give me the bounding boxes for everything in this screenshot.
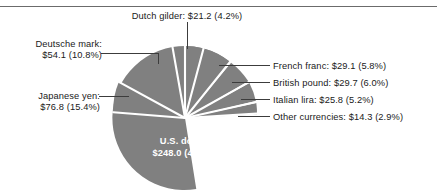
slice-label-french-franc: French franc: $29.1 (5.8%) xyxy=(273,61,386,72)
slice-label-deutsche-mark-line1: Deutsche mark: xyxy=(4,39,102,50)
slice-label-deutsche-mark: Deutsche mark: $54.1 (10.8%) xyxy=(4,39,102,62)
slice-label-dutch-gilder: Dutch gilder: $21.2 (4.2%) xyxy=(98,11,276,22)
slice-label-us-dollar-line2: $248.0 (49.7%) xyxy=(130,148,240,160)
slice-label-italian-lira-line1: Italian lira: $25.8 (5.2%) xyxy=(273,95,374,106)
pie-chart-figure: Dutch gilder: $21.2 (4.2%) Deutsche mark… xyxy=(0,0,437,196)
slice-label-french-franc-line1: French franc: $29.1 (5.8%) xyxy=(273,61,386,72)
slice-label-other-currencies-line1: Other currencies: $14.3 (2.9%) xyxy=(273,112,403,123)
slice-label-us-dollar-line1: U.S. dollar: xyxy=(130,136,240,148)
slice-label-british-pound: British pound: $29.7 (6.0%) xyxy=(273,78,388,89)
slice-label-us-dollar: U.S. dollar: $248.0 (49.7%) xyxy=(130,136,240,159)
slice-label-japanese-yen-line1: Japanese yen: xyxy=(4,91,100,102)
slice-label-japanese-yen: Japanese yen: $76.8 (15.4%) xyxy=(4,91,100,114)
slice-label-japanese-yen-line2: $76.8 (15.4%) xyxy=(4,102,100,113)
slice-label-deutsche-mark-line2: $54.1 (10.8%) xyxy=(4,50,102,61)
slice-label-british-pound-line1: British pound: $29.7 (6.0%) xyxy=(273,78,388,89)
slice-label-other-currencies: Other currencies: $14.3 (2.9%) xyxy=(273,112,403,123)
slice-label-italian-lira: Italian lira: $25.8 (5.2%) xyxy=(273,95,374,106)
slice-label-dutch-gilder-line1: Dutch gilder: $21.2 (4.2%) xyxy=(98,11,276,22)
